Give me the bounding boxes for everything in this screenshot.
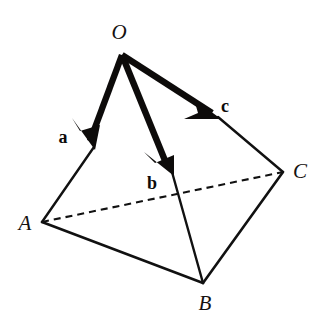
edge-group-dashed	[42, 172, 283, 222]
vector-label-a: a	[59, 128, 68, 146]
vector-label-c: c	[221, 97, 229, 115]
vertex-label-O: O	[111, 22, 126, 43]
edge-a-tail-to-A	[42, 147, 94, 222]
edge-A-to-B	[42, 222, 203, 283]
vector-label-b: b	[147, 174, 157, 192]
tetrahedron-vector-diagram: O A B C a b c	[0, 0, 315, 324]
vertex-label-B: B	[199, 293, 212, 314]
diagram-canvas	[0, 0, 315, 324]
edge-c-tail-to-C	[218, 117, 283, 172]
edge-A-to-C-hidden	[42, 172, 283, 222]
vertex-label-A: A	[19, 213, 32, 234]
edge-group-solid	[42, 117, 283, 283]
vector-group	[72, 55, 221, 176]
vertex-label-C: C	[293, 161, 307, 182]
edge-B-to-C	[203, 172, 283, 283]
